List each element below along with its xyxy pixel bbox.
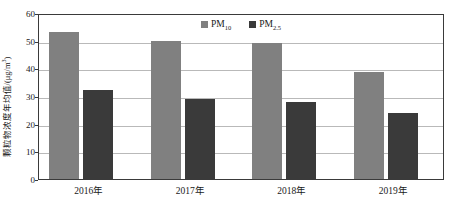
y-axis-title-suffix: ): [2, 57, 12, 60]
bar-group: [242, 15, 344, 179]
y-tick-label: 60: [26, 10, 35, 19]
bar-pm10[interactable]: [151, 41, 181, 179]
y-axis-title-exponent: 3: [0, 59, 7, 62]
y-axis-title: 颗粒物浓度年均值/(μg/m3): [0, 14, 14, 200]
y-axis-title-prefix: 颗粒物浓度年均值/(μg/m: [2, 62, 12, 157]
legend-swatch-pm25: [249, 21, 256, 28]
y-tick-label: 50: [26, 37, 35, 46]
bar-pm25[interactable]: [286, 102, 316, 179]
x-tick-label: 2017年: [140, 186, 242, 197]
bar-pm25[interactable]: [83, 90, 113, 179]
x-tick-label: 2019年: [343, 186, 445, 197]
legend-swatch-pm10: [201, 21, 208, 28]
bar-group: [141, 15, 243, 179]
y-tick-label: 20: [26, 120, 35, 129]
bar-pm10[interactable]: [252, 43, 282, 179]
x-tick-label: 2016年: [38, 186, 140, 197]
y-axis-ticks: 0102030405060: [14, 14, 38, 180]
legend-label-pm10-sub: 10: [225, 24, 232, 31]
legend-item-pm25[interactable]: PM2.5: [249, 19, 281, 30]
x-axis-labels: 2016年2017年2018年2019年: [38, 182, 444, 202]
plot-area: PM10 PM2.5: [38, 14, 444, 180]
legend-label-pm10: PM10: [211, 19, 231, 30]
bar-pm25[interactable]: [388, 113, 418, 179]
legend-item-pm10[interactable]: PM10: [201, 19, 231, 30]
legend-label-pm25-base: PM: [259, 19, 273, 29]
bar-pm10[interactable]: [354, 72, 384, 179]
bar-pm10[interactable]: [49, 32, 79, 179]
y-tick-mark: [35, 180, 38, 181]
y-tick-label: 30: [26, 93, 35, 102]
bar-group: [344, 15, 445, 179]
legend-label-pm10-base: PM: [211, 19, 225, 29]
bar-group: [39, 15, 141, 179]
x-tick-label: 2018年: [241, 186, 343, 197]
y-tick-label: 10: [26, 148, 35, 157]
y-tick-label: 40: [26, 65, 35, 74]
legend-label-pm25: PM2.5: [259, 19, 281, 30]
bar-chart: 颗粒物浓度年均值/(μg/m3) 0102030405060 PM10 PM2.…: [0, 0, 452, 220]
bar-pm25[interactable]: [185, 99, 215, 179]
legend-label-pm25-sub: 2.5: [273, 24, 281, 31]
bars-layer: [39, 15, 443, 179]
legend: PM10 PM2.5: [39, 19, 443, 30]
